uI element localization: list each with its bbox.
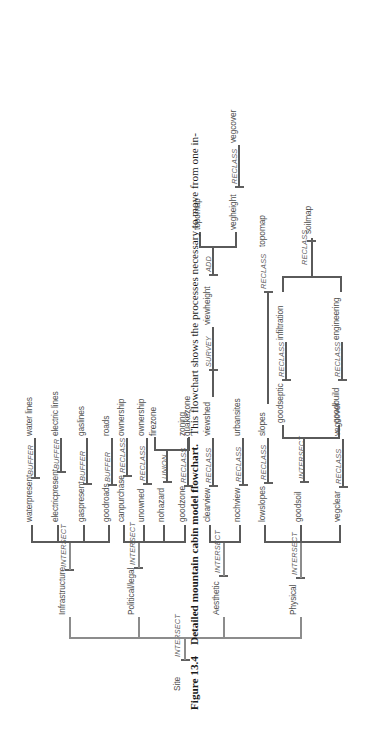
node-engineering: engineering: [332, 297, 341, 340]
line-slopes-topomap: [267, 292, 269, 404]
node-goodzone: goodzone: [178, 486, 187, 522]
line-goodroads-roads: [111, 438, 113, 485]
line-political-stem: [138, 542, 140, 568]
node-viewshed: viewshed: [203, 402, 212, 436]
line-goodsoil-stem: [303, 438, 305, 482]
node-politicallegal: Political/legal: [127, 568, 136, 615]
line-to-clearview: [209, 525, 211, 543]
node-site: Site: [173, 677, 182, 691]
line-unowned-ownership: [146, 438, 148, 484]
line-canpurchase-ownership: [126, 438, 128, 476]
line-to-physical: [300, 617, 302, 639]
line-physical-stem: [300, 542, 302, 578]
line-to-gaspresent: [83, 525, 85, 543]
line-engineering-merge: [340, 277, 342, 292]
line-aesthetic-stem: [223, 542, 225, 576]
node-firezone: firezone: [149, 407, 158, 436]
node-gaspresent: gaspresent: [77, 482, 86, 522]
line-to-politicallegal: [138, 617, 140, 639]
line-goodbuild-engineering: [341, 342, 343, 380]
line-to-goodroads: [108, 525, 110, 543]
figure-title: Detailed mountain cabin model flowchart.: [188, 444, 200, 645]
line-viewheight-stem: [212, 247, 214, 275]
operator-physical-intersect: INTERSECT: [290, 532, 299, 575]
line-to-electricpresent: [57, 525, 59, 543]
line-to-nohazard: [163, 525, 165, 543]
line-nochview-urbansites: [242, 438, 244, 485]
figure-number: Figure 13.4: [188, 656, 200, 710]
node-infrastructure: Infrastructure: [58, 567, 67, 615]
line-goodsoil-spine: [282, 437, 340, 439]
operator-soil-reclass: RECLASS: [300, 230, 309, 265]
line-vegheight-vegcover: [238, 145, 240, 187]
node-viewheight: viewheight: [203, 286, 212, 325]
line-site-stem: [184, 638, 186, 660]
tick-soilmap: [307, 240, 316, 242]
node-aesthetic: Aesthetic: [212, 581, 221, 615]
line-aesthetic-spine: [209, 541, 241, 543]
node-lowslopes: lowslopes: [258, 486, 267, 522]
node-slopes: slopes: [258, 412, 267, 436]
figure-caption-text: This flowchart shows the processes neces…: [188, 133, 200, 436]
node-topomap: topomap: [258, 215, 267, 247]
operator-aesthetic-intersect: INTERSECT: [213, 530, 222, 573]
line-merge-soilmap: [311, 238, 313, 278]
line-political-spine: [123, 541, 185, 543]
line-to-infrastructure: [69, 617, 71, 639]
line-nohazard-stem: [166, 450, 168, 482]
node-canpurchase: canpurchase: [117, 475, 126, 522]
node-physical: Physical: [289, 585, 298, 615]
line-to-vegclear: [339, 525, 341, 543]
node-vegclear: vegclear: [333, 491, 342, 522]
line-infrastructure-stem: [69, 542, 71, 570]
line-to-canpurchase: [123, 525, 125, 543]
line-infiltration-merge: [282, 277, 284, 292]
line-electricpresent-electriclines: [60, 438, 62, 472]
node-vegheight: vegheight: [229, 195, 238, 230]
node-waterpresent: waterpresent: [25, 475, 34, 522]
figure-container: Site INTERSECT Infrastructure INTERSECT …: [0, 0, 376, 730]
line-gaspresent-gaslines: [86, 438, 88, 484]
line-infrastructure-spine: [31, 541, 109, 543]
line-to-lowslopes: [264, 525, 266, 543]
line-to-nochview: [239, 525, 241, 543]
node-nochview: nochview: [233, 488, 242, 522]
node-electriclines: electric lines: [51, 391, 60, 436]
line-viewheight-spine: [199, 246, 237, 248]
line-clearview-viewshed: [212, 438, 214, 486]
line-goodseptic-infiltration: [285, 342, 287, 380]
node-urbansites: urbansites: [233, 398, 242, 436]
line-waterpresent-waterlines: [34, 438, 36, 478]
node-ownership-2: ownership: [117, 399, 126, 436]
node-unowned: unowned: [137, 489, 146, 522]
line-to-firezone: [154, 437, 156, 451]
node-gaslines: gaslines: [77, 406, 86, 436]
line-vegclear-vegcover: [342, 439, 344, 487]
node-waterlines: water lines: [25, 397, 34, 436]
node-ownership: ownership: [137, 399, 146, 436]
node-vegcover: vegcover: [333, 403, 342, 436]
line-lowslopes-slopes: [267, 438, 269, 483]
line-to-goodseptic: [282, 425, 284, 439]
node-nohazard: nohazard: [157, 488, 166, 522]
operator-political-intersect: INTERSECT: [128, 522, 137, 565]
node-roads: roads: [102, 416, 111, 436]
line-to-waterpresent: [31, 525, 33, 543]
operator-site-intersect: INTERSECT: [173, 614, 182, 657]
node-infiltration: infiltration: [276, 305, 285, 340]
line-to-goodsoil: [300, 525, 302, 543]
node-goodseptic: goodseptic: [276, 383, 285, 423]
operator-slopes-reclass: RECLASS: [259, 254, 268, 289]
node-goodroads: goodroads: [102, 483, 111, 522]
node-clearview: clearview: [203, 488, 212, 522]
node-electricpresent: electricpresent: [51, 469, 60, 522]
line-site-spine: [69, 637, 301, 639]
line-to-aesthetic: [223, 617, 225, 639]
line-to-vegheight: [235, 232, 237, 248]
node-goodsoil: goodsoil: [294, 492, 303, 522]
line-to-unowned: [143, 525, 145, 543]
node-zoning: zoning: [178, 412, 187, 436]
operator-infrastructure-intersect: INTERSECT: [59, 524, 68, 567]
line-viewshed-viewheight: [212, 327, 214, 397]
node-soilmap: soilmap: [304, 206, 313, 234]
